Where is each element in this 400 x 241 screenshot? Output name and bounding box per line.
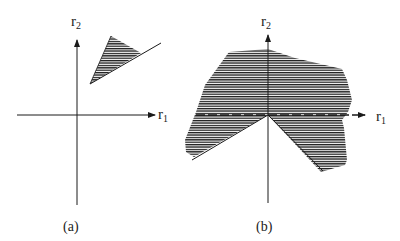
panel-b: [185, 35, 365, 203]
panel-a-y-axis-label: r2: [71, 14, 81, 31]
panel-b-x-axis-label: r1: [376, 109, 386, 126]
panel-a-shaded-cone: [90, 36, 141, 84]
panel-a: [17, 36, 161, 205]
panel-b-caption: (b): [256, 219, 272, 235]
figure-canvas: [0, 0, 400, 241]
panel-b-y-axis-label: r2: [261, 14, 271, 31]
panel-a-x-axis-label: r1: [158, 107, 168, 124]
panel-a-caption: (a): [63, 219, 79, 235]
